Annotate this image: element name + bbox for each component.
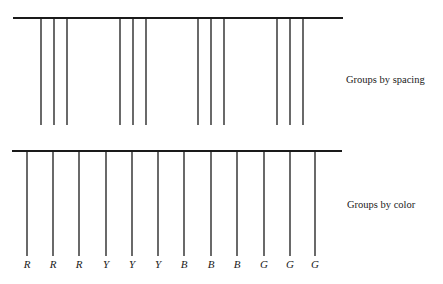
caption-groups-by-color: Groups by color bbox=[347, 200, 415, 211]
spacing-panel bbox=[13, 18, 343, 125]
color-label: R bbox=[23, 258, 31, 270]
spacing-group bbox=[41, 18, 67, 125]
color-panel: RRRYYYBBBGGG bbox=[12, 151, 342, 270]
caption-groups-by-spacing: Groups by spacing bbox=[346, 75, 425, 86]
color-label: B bbox=[234, 258, 241, 270]
color-label: G bbox=[311, 258, 319, 270]
grouping-diagram: RRRYYYBBBGGG bbox=[0, 0, 443, 284]
spacing-group bbox=[198, 18, 224, 125]
color-label: G bbox=[286, 258, 294, 270]
spacing-group bbox=[277, 18, 303, 125]
color-label: Y bbox=[155, 258, 163, 270]
color-label: Y bbox=[103, 258, 111, 270]
color-label: R bbox=[49, 258, 57, 270]
color-label: B bbox=[208, 258, 215, 270]
color-label: Y bbox=[129, 258, 137, 270]
color-label: B bbox=[181, 258, 188, 270]
spacing-group bbox=[120, 18, 146, 125]
color-label: R bbox=[75, 258, 83, 270]
color-label: G bbox=[260, 258, 268, 270]
